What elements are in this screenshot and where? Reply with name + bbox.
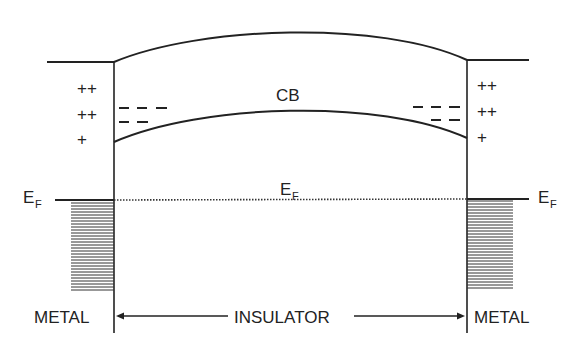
fermi-label-center: E F (280, 180, 299, 202)
conduction-band-label: CB (276, 86, 300, 105)
right-charge-2: ++ (477, 102, 497, 121)
left-charge-1: ++ (77, 79, 97, 98)
left-charge-2: ++ (77, 105, 97, 124)
svg-text:E: E (280, 180, 291, 199)
svg-text:F: F (35, 198, 42, 210)
right-metal-label: METAL (474, 308, 529, 327)
upper-band-curve (114, 32, 467, 62)
right-metal-filled-states (467, 201, 513, 288)
svg-text:F: F (550, 198, 557, 210)
svg-text:E: E (23, 188, 34, 207)
svg-text:E: E (538, 188, 549, 207)
conduction-band-curve (114, 111, 467, 142)
fermi-dotted-line (114, 199, 467, 200)
fermi-label-right: E F (538, 188, 557, 210)
right-charge-1: ++ (477, 76, 497, 95)
left-charge-3: + (77, 130, 87, 149)
insulator-label: INSULATOR (234, 308, 330, 327)
right-charge-3: + (477, 128, 487, 147)
left-negative-charges (119, 108, 167, 122)
left-metal-filled-states (71, 203, 114, 290)
mim-band-diagram: ++ ++ + ++ ++ + CB E F E F E F METAL MET… (0, 0, 584, 351)
fermi-label-left: E F (23, 188, 42, 210)
svg-text:F: F (292, 190, 299, 202)
left-metal-label: METAL (34, 308, 89, 327)
right-negative-charges (413, 107, 460, 120)
